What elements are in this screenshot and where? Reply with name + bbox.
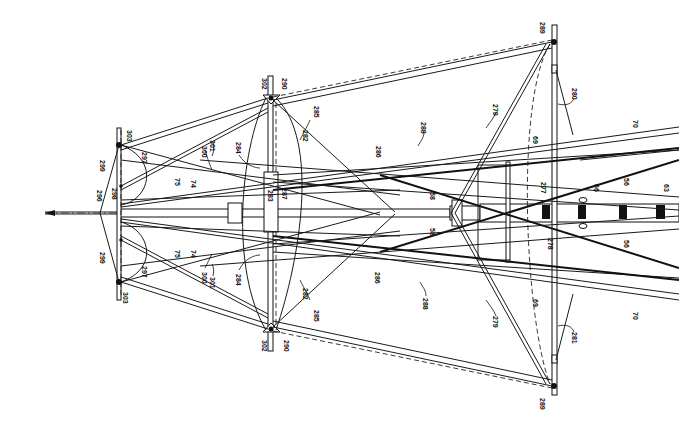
label-281: 281 xyxy=(571,332,578,344)
label-286: 286 xyxy=(374,272,381,284)
label-56: 56 xyxy=(623,178,630,186)
label-75: 75 xyxy=(174,250,181,258)
label-277: 277 xyxy=(540,182,547,194)
label-297: 297 xyxy=(141,152,148,164)
label-290: 290 xyxy=(281,78,288,90)
bow-tip xyxy=(45,210,55,216)
label-287: 287 xyxy=(281,188,288,200)
label-58: 58 xyxy=(429,192,436,200)
label-279: 279 xyxy=(492,316,499,328)
label-63: 63 xyxy=(663,184,670,192)
label-283: 283 xyxy=(267,190,274,202)
label-74: 74 xyxy=(190,250,197,258)
label-303: 303 xyxy=(126,130,133,142)
label-289: 289 xyxy=(539,22,546,34)
label-285: 285 xyxy=(313,310,320,322)
label-285: 285 xyxy=(313,106,320,118)
label-66: 66 xyxy=(593,184,600,192)
label-284: 284 xyxy=(235,274,242,286)
label-70: 70 xyxy=(632,312,639,320)
rigging-diagram: 303 303 299 299 297 297 296 298 300 301 … xyxy=(0,0,679,435)
label-302: 302 xyxy=(261,78,268,90)
label-301: 301 xyxy=(209,277,216,289)
label-298: 298 xyxy=(111,188,118,200)
label-74: 74 xyxy=(190,180,197,188)
label-288: 288 xyxy=(422,298,429,310)
label-290: 290 xyxy=(283,340,290,352)
label-282: 282 xyxy=(302,288,309,300)
label-280: 280 xyxy=(571,88,578,100)
label-69: 69 xyxy=(532,299,539,307)
label-299: 299 xyxy=(99,160,106,172)
label-302: 302 xyxy=(261,340,268,352)
label-58: 58 xyxy=(429,228,436,236)
label-300: 300 xyxy=(201,272,208,284)
label-288: 288 xyxy=(420,122,427,134)
label-289: 289 xyxy=(539,398,546,410)
label-299: 299 xyxy=(99,252,106,264)
label-69: 69 xyxy=(532,136,539,144)
label-297: 297 xyxy=(141,266,148,278)
label-75: 75 xyxy=(174,178,181,186)
label-303: 303 xyxy=(122,292,129,304)
label-70: 70 xyxy=(632,120,639,128)
label-284: 284 xyxy=(235,142,242,154)
label-56: 56 xyxy=(623,240,630,248)
label-278: 278 xyxy=(547,238,554,250)
label-296: 296 xyxy=(96,190,103,202)
label-282: 282 xyxy=(302,130,309,142)
label-286: 286 xyxy=(375,146,382,158)
label-301: 301 xyxy=(209,140,216,152)
